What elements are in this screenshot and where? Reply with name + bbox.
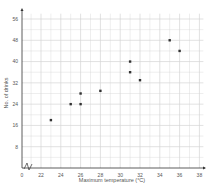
x-tick-label: 36 bbox=[177, 172, 183, 178]
grid bbox=[22, 14, 203, 168]
scatter-chart: 02224262830323436388162432404856 Maximum… bbox=[0, 0, 212, 186]
data-point bbox=[79, 103, 81, 105]
x-tick-label: 34 bbox=[157, 172, 163, 178]
y-tick-label: 16 bbox=[12, 122, 18, 128]
x-tick-label: 24 bbox=[58, 172, 64, 178]
x-axis-label: Maximum temperature (°C) bbox=[79, 177, 146, 183]
axes bbox=[21, 8, 207, 170]
y-tick-label: 40 bbox=[12, 58, 18, 64]
data-point bbox=[99, 90, 101, 92]
chart-svg: 02224262830323436388162432404856 Maximum… bbox=[0, 0, 212, 186]
x-tick-label: 22 bbox=[38, 172, 44, 178]
y-tick-label: 32 bbox=[12, 80, 18, 86]
data-point bbox=[50, 119, 52, 121]
y-axis-label: No. of drinks bbox=[3, 77, 9, 108]
data-points bbox=[50, 39, 181, 121]
y-tick-label: 8 bbox=[15, 144, 18, 150]
y-tick-label: 24 bbox=[12, 101, 18, 107]
data-point bbox=[129, 71, 131, 73]
data-point bbox=[178, 50, 180, 52]
data-point bbox=[79, 92, 81, 94]
data-point bbox=[169, 39, 171, 41]
x-tick-label: 0 bbox=[21, 172, 24, 178]
data-point bbox=[70, 103, 72, 105]
data-point bbox=[129, 60, 131, 62]
y-tick-label: 48 bbox=[12, 37, 18, 43]
x-tick-label: 38 bbox=[197, 172, 203, 178]
data-point bbox=[139, 79, 141, 81]
y-tick-label: 56 bbox=[12, 16, 18, 22]
